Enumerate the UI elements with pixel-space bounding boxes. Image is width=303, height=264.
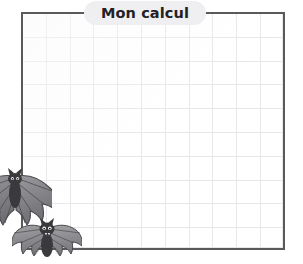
bat-small-icon [12,216,82,262]
worksheet-page: Mon calcul [0,0,303,264]
bat-small-illustration [12,216,82,262]
page-title: Mon calcul [101,6,189,21]
calculation-box-title-pill: Mon calcul [84,1,206,25]
calculation-box[interactable] [21,12,285,250]
grid-squares [23,14,283,248]
